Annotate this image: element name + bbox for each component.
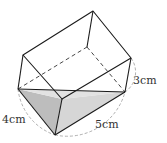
label-3cm: 3cm [133, 74, 157, 87]
prism-diagram: 3cm 4cm 5cm [0, 0, 167, 143]
label-5cm: 5cm [95, 118, 119, 131]
label-4cm: 4cm [2, 113, 26, 126]
hidden-edge [87, 47, 125, 92]
hidden-edge [18, 47, 87, 89]
